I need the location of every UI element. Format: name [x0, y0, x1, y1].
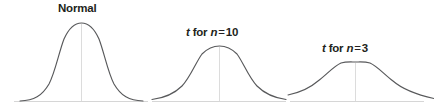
distribution-comparison-figure: Normal t for n=10 t for n=3: [0, 0, 434, 109]
panel-label-t-n-10-equals: =: [217, 26, 226, 38]
panel-label-normal-text: Normal: [58, 2, 96, 14]
panel-label-t-n-10: t for n=10: [186, 26, 238, 39]
panel-label-t-n-10-prefix: for: [193, 26, 208, 38]
panel-normal: [14, 23, 148, 102]
figure-canvas: [0, 0, 434, 109]
panel-t-n-10: [152, 46, 286, 102]
panel-label-t-n-3: t for n=3: [322, 42, 368, 55]
panel-label-t-n-10-value: 10: [226, 26, 238, 38]
panel-label-t-n-3-prefix: for: [329, 42, 344, 54]
curve-t-n-3: [288, 62, 434, 99]
panel-label-normal: Normal: [58, 2, 96, 15]
panel-label-t-n-3-value: 3: [362, 42, 368, 54]
panel-label-t-n-3-equals: =: [353, 42, 362, 54]
panel-t-n-3: [288, 62, 434, 102]
